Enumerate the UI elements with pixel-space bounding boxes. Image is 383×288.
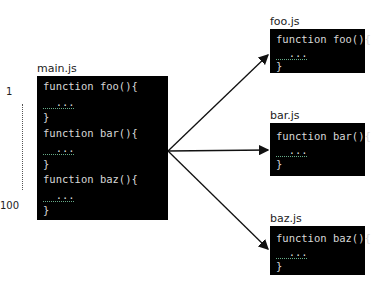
foo-filename: foo.js (270, 16, 299, 28)
baz-filename: baz.js (270, 213, 302, 225)
code-line: } (43, 157, 168, 173)
code-line: } (276, 157, 365, 171)
code-line: ... (276, 245, 365, 259)
arrow-to-baz (168, 151, 268, 249)
bar-code-block: function bar(){ ... } (270, 123, 365, 176)
code-line: ... (43, 95, 168, 111)
code-line: function baz(){ (276, 231, 365, 245)
code-line: function foo(){ (43, 79, 168, 95)
code-line: function bar(){ (276, 129, 365, 143)
arrow-to-foo (168, 55, 268, 151)
code-line: function bar(){ (43, 126, 168, 142)
code-line: } (43, 110, 168, 126)
code-line: } (43, 203, 168, 219)
code-line: ... (43, 141, 168, 157)
main-code-block: function foo(){ ... } function bar(){ ..… (37, 76, 168, 220)
arrow-to-bar (168, 150, 268, 151)
code-line: function foo(){ (276, 33, 365, 47)
code-line: } (276, 259, 365, 273)
line-end-number: 100 (0, 200, 19, 211)
code-line: ... (276, 47, 365, 61)
code-line: ... (43, 188, 168, 204)
foo-code-block: function foo(){ ... } (270, 29, 365, 73)
main-filename: main.js (37, 63, 77, 75)
code-line: } (276, 60, 365, 74)
line-start-number: 1 (6, 86, 12, 97)
baz-code-block: function baz(){ ... } (270, 226, 365, 275)
line-range-dots (22, 104, 23, 190)
code-line: function baz(){ (43, 172, 168, 188)
bar-filename: bar.js (270, 110, 300, 122)
code-line: ... (276, 143, 365, 157)
